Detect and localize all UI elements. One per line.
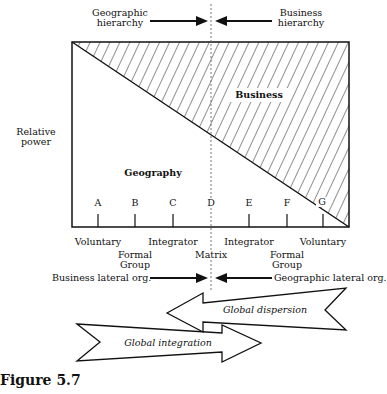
point-f: F bbox=[281, 198, 293, 208]
structure-integrator-right: Integrator bbox=[223, 237, 275, 247]
business-lateral-org-label: Business lateral org. bbox=[52, 273, 148, 283]
figure-caption: Figure 5.7 bbox=[0, 372, 81, 388]
structure-integrator-left: Integrator bbox=[147, 237, 199, 247]
global-dispersion-label: Global dispersion bbox=[210, 305, 320, 315]
geographic-hierarchy-label: Geographic hierarchy bbox=[92, 8, 148, 28]
point-a: A bbox=[92, 198, 104, 208]
structure-voluntary-right: Voluntary bbox=[298, 237, 348, 247]
point-d: D bbox=[205, 198, 217, 208]
structure-matrix: Matrix bbox=[193, 250, 229, 260]
structure-voluntary-left: Voluntary bbox=[73, 237, 123, 247]
point-e: E bbox=[243, 198, 255, 208]
structure-formal-group-left: Formal Group bbox=[115, 250, 155, 270]
business-region-label: Business bbox=[230, 90, 288, 100]
global-integration-label: Global integration bbox=[118, 338, 218, 348]
business-hierarchy-label: Business hierarchy bbox=[273, 8, 329, 28]
structure-formal-group-right: Formal Group bbox=[267, 250, 307, 270]
geography-region-label: Geography bbox=[120, 168, 186, 178]
point-c: C bbox=[167, 198, 179, 208]
point-b: B bbox=[129, 198, 141, 208]
point-g: G bbox=[316, 197, 328, 207]
relative-power-label: Relative power bbox=[14, 127, 58, 147]
geographic-lateral-org-label: Geographic lateral org. bbox=[274, 273, 374, 283]
